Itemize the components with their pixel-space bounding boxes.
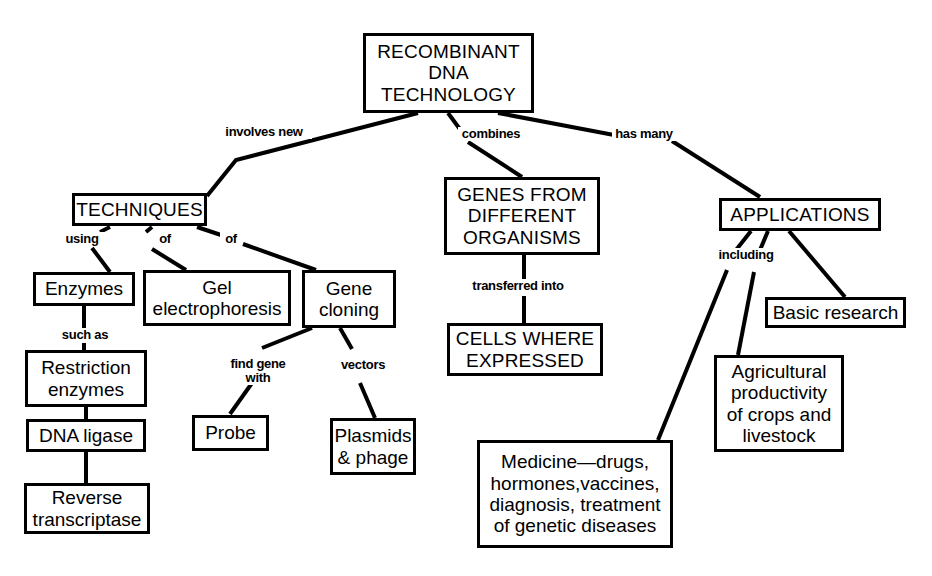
edge-techniques-gel xyxy=(146,227,152,232)
link-label-including: including xyxy=(713,248,779,262)
node-basic[interactable]: Basic research xyxy=(765,297,906,328)
node-gel[interactable]: Gel electrophoresis xyxy=(143,270,291,326)
node-ligase[interactable]: DNA ligase xyxy=(26,419,146,452)
link-label-combines: combines xyxy=(458,127,524,141)
node-cells[interactable]: CELLS WHERE EXPRESSED xyxy=(447,323,603,376)
link-label-involves-new: involves new xyxy=(216,125,312,139)
node-restriction[interactable]: Restriction enzymes xyxy=(25,350,147,407)
edge-root-genes-2 xyxy=(468,142,522,177)
node-enzymes[interactable]: Enzymes xyxy=(33,272,135,306)
edge-techniques-cloning xyxy=(197,227,221,235)
edge-plasmids-link xyxy=(360,383,375,418)
node-cloning[interactable]: Gene cloning xyxy=(302,270,396,328)
link-label-vectors: vectors xyxy=(336,358,390,372)
edge-cloning-probe xyxy=(262,328,312,348)
edge-root-applications-2 xyxy=(672,141,760,197)
edge-techniques-enzymes-2 xyxy=(92,248,110,272)
link-label-transferred-into: transferred into xyxy=(462,279,574,293)
node-techniques[interactable]: TECHNIQUES xyxy=(72,193,207,226)
edge-cloning-probe-2 xyxy=(230,383,252,414)
edge-techniques-gel-2 xyxy=(152,249,186,270)
link-label-find-gene-with: find gene with xyxy=(225,357,291,385)
link-label-using: using xyxy=(60,232,104,246)
node-reverse[interactable]: Reverse transcriptase xyxy=(24,483,150,534)
node-root[interactable]: RECOMBINANT DNA TECHNOLOGY xyxy=(363,33,534,113)
node-medicine[interactable]: Medicine—drugs, hormones,vaccines, diagn… xyxy=(477,440,673,548)
node-genes[interactable]: GENES FROM DIFFERENT ORGANISMS xyxy=(444,177,600,255)
node-plasmids[interactable]: Plasmids & phage xyxy=(330,418,416,475)
link-label-has-many: has many xyxy=(612,127,676,141)
link-label-such-as: such as xyxy=(56,328,114,342)
link-label-of-gel: of xyxy=(154,232,176,246)
node-probe[interactable]: Probe xyxy=(192,415,269,451)
node-agriculture[interactable]: Agricultural productivity of crops and l… xyxy=(714,355,844,452)
edge-apps-basic xyxy=(789,231,845,297)
edge-apps-agriculture-2 xyxy=(738,272,754,355)
edge-techniques-cloning-2 xyxy=(243,244,316,270)
concept-map-canvas: RECOMBINANT DNA TECHNOLOGYTECHNIQUESGENE… xyxy=(0,0,932,576)
edge-cloning-plasmids xyxy=(340,328,352,349)
node-applications[interactable]: APPLICATIONS xyxy=(719,198,881,231)
link-label-of-cloning: of xyxy=(220,232,242,246)
